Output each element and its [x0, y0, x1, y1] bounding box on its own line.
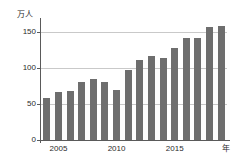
- bar: [78, 82, 85, 140]
- plot-area: [41, 21, 227, 140]
- y-tick-label-50: 50: [14, 100, 36, 108]
- bar: [101, 82, 108, 140]
- bar-group: [41, 21, 227, 140]
- y-tick-label-group: 050100150: [10, 0, 36, 165]
- bar: [136, 60, 143, 140]
- bar: [218, 26, 225, 140]
- x-axis-title: 年: [222, 145, 230, 153]
- bar: [90, 79, 97, 140]
- bar: [67, 91, 74, 140]
- bar: [125, 70, 132, 140]
- y-tick-label-150: 150: [14, 28, 36, 36]
- bar: [160, 58, 167, 140]
- x-tick-label-2010: 2010: [105, 145, 129, 153]
- y-tick-label-0: 0: [14, 136, 36, 144]
- bar: [148, 56, 155, 140]
- bar: [183, 38, 190, 140]
- y-tick-mark-0: [37, 140, 41, 141]
- y-tick-label-100: 100: [14, 64, 36, 72]
- bar-chart: 万人 050100150 200520102015 年: [0, 0, 239, 165]
- x-tick-label-2005: 2005: [46, 145, 70, 153]
- bar: [194, 38, 201, 140]
- bar: [113, 90, 120, 140]
- bar: [43, 98, 50, 140]
- bar: [171, 48, 178, 140]
- bar: [206, 27, 213, 140]
- bar: [55, 92, 62, 140]
- x-axis-line: [40, 140, 230, 141]
- x-tick-label-2015: 2015: [163, 145, 187, 153]
